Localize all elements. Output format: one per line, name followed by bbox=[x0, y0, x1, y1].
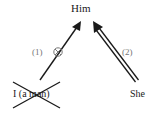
arrowhead-icon bbox=[72, 21, 81, 31]
node-i-a-man: I (a man) bbox=[13, 89, 50, 99]
arrow-1 bbox=[40, 21, 81, 80]
node-she: She bbox=[130, 89, 145, 99]
node-him: Him bbox=[71, 3, 91, 14]
arrow-2-label: (2) bbox=[122, 48, 133, 57]
arrow-1-label: (1) bbox=[32, 48, 43, 57]
